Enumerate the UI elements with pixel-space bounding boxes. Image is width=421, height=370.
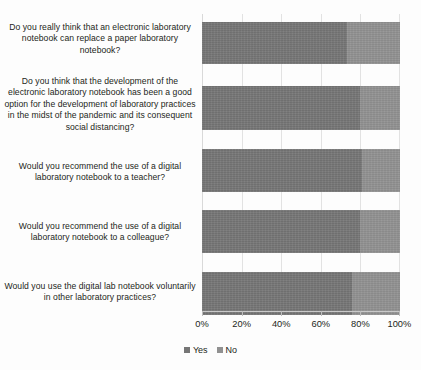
x-tick-80 <box>360 311 361 316</box>
x-tick-40 <box>281 311 282 316</box>
bar-row-1 <box>202 22 400 64</box>
category-label-1: Do you really think that an electronic l… <box>4 22 196 56</box>
bar-segment-no-5 <box>352 272 400 315</box>
legend-item-no: No <box>217 345 238 355</box>
plot-area <box>202 14 400 311</box>
x-tick-label-60: 60% <box>311 319 330 329</box>
category-label-4: Would you recommend the use of a digital… <box>4 221 196 244</box>
x-tick-20 <box>242 311 243 316</box>
x-axis: 0% 20% 40% 60% 80% 100% <box>202 311 400 333</box>
category-label-5: Would you use the digital lab notebook v… <box>4 281 196 304</box>
x-tick-label-20: 20% <box>232 319 251 329</box>
legend-label-yes: Yes <box>193 345 208 355</box>
bar-segment-no-3 <box>362 149 400 192</box>
bar-segment-yes-3 <box>202 149 362 192</box>
bar-row-5 <box>202 272 400 315</box>
bar-row-2 <box>202 86 400 130</box>
x-axis-line <box>202 311 400 312</box>
bar-row-3 <box>202 149 400 192</box>
chart-legend: Yes No <box>0 345 421 355</box>
legend-swatch-no-icon <box>217 347 223 353</box>
bar-row-4 <box>202 210 400 253</box>
stacked-bar-chart: Do you really think that an electronic l… <box>0 0 421 370</box>
legend-swatch-yes-icon <box>184 347 190 353</box>
x-tick-label-80: 80% <box>351 319 370 329</box>
x-tick-label-40: 40% <box>272 319 291 329</box>
bar-segment-no-2 <box>360 86 400 130</box>
x-tick-label-100: 100% <box>388 319 412 329</box>
x-tick-60 <box>321 311 322 316</box>
bar-segment-no-4 <box>360 210 400 253</box>
bar-segment-no-1 <box>347 22 400 64</box>
bar-segment-yes-2 <box>202 86 360 130</box>
legend-label-no: No <box>226 345 238 355</box>
bar-segment-yes-5 <box>202 272 352 315</box>
legend-item-yes: Yes <box>184 345 208 355</box>
bar-segment-yes-4 <box>202 210 360 253</box>
bar-segment-yes-1 <box>202 22 347 64</box>
x-tick-100 <box>399 311 400 316</box>
x-tick-label-0: 0% <box>195 319 208 329</box>
category-label-2: Do you think that the development of the… <box>4 76 196 133</box>
x-tick-0 <box>202 311 203 316</box>
category-label-3: Would you recommend the use of a digital… <box>4 161 196 184</box>
